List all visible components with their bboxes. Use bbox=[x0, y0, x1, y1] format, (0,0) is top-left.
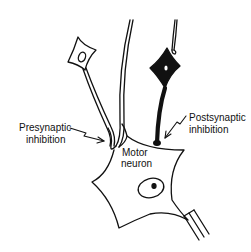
neuron-diagram: Presynaptic inhibition Postsynaptic inhi… bbox=[0, 0, 251, 252]
motor-neuron-label-line2: neuron bbox=[121, 158, 152, 169]
motor-axon bbox=[184, 210, 209, 240]
presynaptic-arrow bbox=[70, 128, 104, 143]
inhibitory-interneuron bbox=[150, 20, 180, 145]
presynaptic-label-line1: Presynaptic bbox=[19, 122, 71, 133]
presynaptic-label-line2: inhibition bbox=[26, 134, 65, 145]
postsynaptic-arrow bbox=[165, 116, 186, 138]
motor-neuron-label-line1: Motor bbox=[122, 147, 148, 158]
postsynaptic-label-line2: inhibition bbox=[189, 124, 228, 135]
postsynaptic-label-line1: Postsynaptic bbox=[189, 112, 246, 123]
